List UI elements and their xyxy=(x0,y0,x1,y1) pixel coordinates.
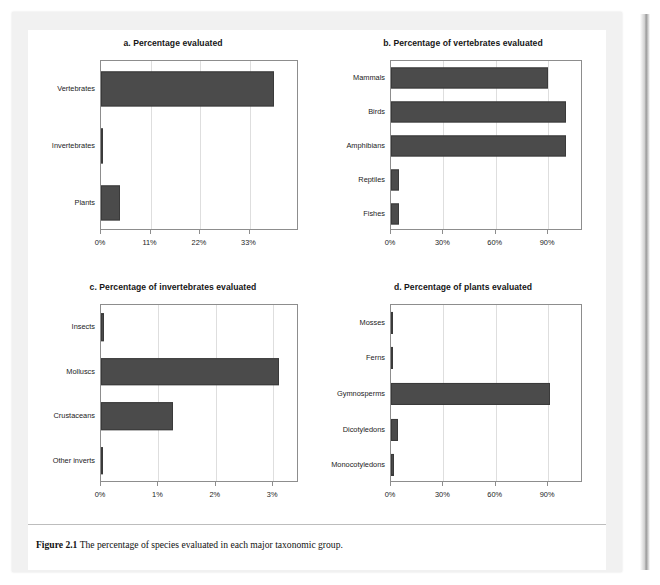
x-axis-tick xyxy=(547,482,548,486)
category-label: Gymnosperms xyxy=(337,389,385,398)
bar xyxy=(101,447,103,475)
x-axis-tick xyxy=(495,230,496,234)
bar xyxy=(391,169,399,190)
figure-caption-text: The percentage of species evaluated in e… xyxy=(80,539,343,550)
category-axis-c: InsectsMolluscsCrustaceansOther inverts xyxy=(28,304,100,482)
book-spine-shadow xyxy=(640,14,650,570)
category-label: Reptiles xyxy=(358,175,385,184)
chart-panel-b: b. Percentage of vertebrates evaluatedMa… xyxy=(320,38,606,278)
category-label: Mammals xyxy=(353,73,385,82)
plot-area-c xyxy=(100,304,298,482)
bar xyxy=(101,402,173,430)
x-axis-tick xyxy=(272,482,273,486)
chart-panel-d: d. Percentage of plants evaluatedMossesF… xyxy=(320,282,606,530)
chart-panel-a: a. Percentage evaluatedVertebratesInvert… xyxy=(28,38,318,278)
chart-title-c: c. Percentage of invertebrates evaluated xyxy=(28,282,318,292)
category-label: Invertebrates xyxy=(52,141,95,150)
x-axis-tick-label: 3% xyxy=(267,490,278,499)
x-axis-tick xyxy=(100,230,101,234)
x-axis-tick xyxy=(199,230,200,234)
x-axis-tick-label: 0% xyxy=(385,238,396,247)
x-axis-tick-label: 0% xyxy=(385,490,396,499)
category-label: Molluscs xyxy=(66,366,95,375)
bar xyxy=(391,419,398,441)
x-axis-tick xyxy=(100,482,101,486)
category-label: Monocotyledons xyxy=(331,460,385,469)
x-axis-tick-label: 60% xyxy=(487,238,502,247)
x-axis-tick xyxy=(249,230,250,234)
category-axis-a: VertebratesInvertebratesPlants xyxy=(28,60,100,230)
category-axis-d: MossesFernsGymnospermsDicotyledonsMonoco… xyxy=(320,304,390,482)
bar xyxy=(101,128,103,163)
bar xyxy=(101,313,104,341)
bar xyxy=(391,203,399,224)
x-axis-tick-label: 90% xyxy=(540,238,555,247)
x-axis-tick-label: 90% xyxy=(540,490,555,499)
x-axis-tick xyxy=(215,482,216,486)
chart-title-a: a. Percentage evaluated xyxy=(28,38,318,48)
bar xyxy=(101,185,120,220)
x-axis-tick-label: 0% xyxy=(95,490,106,499)
figure-caption: Figure 2.1 The percentage of species eva… xyxy=(36,538,343,551)
category-label: Amphibians xyxy=(346,141,385,150)
figure-caption-number: Figure 2.1 xyxy=(36,539,77,550)
bar xyxy=(391,135,566,156)
bar xyxy=(391,347,393,369)
category-label: Crustaceans xyxy=(54,411,96,420)
chart-title-d: d. Percentage of plants evaluated xyxy=(320,282,606,292)
x-axis-tick xyxy=(390,230,391,234)
x-axis-tick-label: 2% xyxy=(209,490,220,499)
x-axis-tick xyxy=(442,230,443,234)
bar xyxy=(391,454,394,476)
bar xyxy=(391,67,548,88)
bar xyxy=(391,101,566,122)
x-axis-tick xyxy=(157,482,158,486)
category-label: Plants xyxy=(74,197,95,206)
category-label: Dicotyledons xyxy=(343,424,385,433)
category-label: Fishes xyxy=(363,209,385,218)
category-axis-b: MammalsBirdsAmphibiansReptilesFishes xyxy=(320,60,390,230)
category-label: Insects xyxy=(72,322,95,331)
plot-area-d xyxy=(390,304,582,482)
plot-area-a xyxy=(100,60,298,230)
category-label: Vertebrates xyxy=(57,84,95,93)
x-axis-tick xyxy=(442,482,443,486)
x-axis-tick-label: 1% xyxy=(152,490,163,499)
category-label: Ferns xyxy=(366,353,385,362)
bar xyxy=(101,358,279,386)
bar xyxy=(391,383,550,405)
bar xyxy=(101,72,274,107)
x-axis-tick-label: 11% xyxy=(142,238,156,247)
category-label: Mosses xyxy=(360,317,385,326)
x-axis-tick-label: 60% xyxy=(487,490,502,499)
x-axis-tick xyxy=(495,482,496,486)
figure-2-1: a. Percentage evaluatedVertebratesInvert… xyxy=(28,30,606,570)
chart-title-b: b. Percentage of vertebrates evaluated xyxy=(320,38,606,48)
x-axis-tick-label: 0% xyxy=(95,238,106,247)
plot-area-b xyxy=(390,60,582,230)
gridline xyxy=(158,305,159,481)
category-label: Birds xyxy=(368,107,385,116)
gridline xyxy=(273,305,274,481)
bar xyxy=(391,312,393,334)
gridline xyxy=(216,305,217,481)
x-axis-tick-label: 30% xyxy=(435,238,450,247)
x-axis-tick xyxy=(547,230,548,234)
category-label: Other inverts xyxy=(53,455,95,464)
x-axis-tick xyxy=(150,230,151,234)
x-axis-tick-label: 30% xyxy=(435,490,450,499)
caption-divider xyxy=(28,524,606,525)
x-axis-tick xyxy=(390,482,391,486)
chart-panel-c: c. Percentage of invertebrates evaluated… xyxy=(28,282,318,530)
x-axis-tick-label: 33% xyxy=(241,238,256,247)
scanned-page: a. Percentage evaluatedVertebratesInvert… xyxy=(0,0,660,585)
x-axis-tick-label: 22% xyxy=(192,238,207,247)
